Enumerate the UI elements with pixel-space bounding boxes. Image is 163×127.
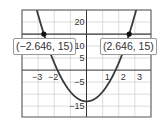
y-tick-label: −5 <box>74 77 84 87</box>
point-label-right: (2.646, 15) <box>100 38 157 55</box>
point-label-left: (−2.646, 15) <box>13 38 76 55</box>
y-tick-label: −15 <box>69 101 84 111</box>
intersection-point <box>41 31 46 36</box>
x-tick-label: −3 <box>32 72 42 82</box>
x-tick-label: 1 <box>105 72 110 82</box>
x-tick-label: −2 <box>48 72 58 82</box>
graph: −3−212320105−5−15 <box>0 0 163 127</box>
x-tick-label: 2 <box>121 72 126 82</box>
y-tick-label: 5 <box>79 53 84 63</box>
x-tick-label: 3 <box>137 72 142 82</box>
intersection-point <box>127 31 132 36</box>
y-tick-label: 20 <box>74 17 84 27</box>
y-tick-label: 10 <box>74 41 84 51</box>
